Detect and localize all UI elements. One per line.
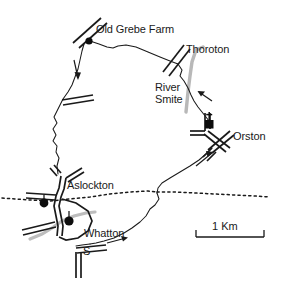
station-marker-label: S [83, 245, 90, 257]
church-icon-orston [205, 112, 214, 129]
place-label-orston: Orston [233, 131, 265, 143]
place-label-old-grebe-farm: Old Grebe Farm [96, 24, 174, 36]
direction-arrow-river-smite-leg [198, 91, 213, 101]
road-whatton-junction [76, 245, 107, 278]
river-label-line-1: River [155, 82, 180, 94]
road-crossing-west [62, 95, 94, 105]
scale-bar-label: 1 Km [212, 220, 238, 232]
direction-arrow-orston-leg [196, 151, 214, 166]
site-marker-aslockton [40, 199, 49, 208]
site-marker-whatton [64, 216, 73, 225]
road-aslockton [22, 165, 92, 240]
river-label-line-2: Smite [155, 94, 183, 106]
place-label-whatton: Whatton [84, 228, 124, 240]
place-label-thoroton: Thoroton [186, 44, 229, 56]
place-label-aslockton: Aslockton [67, 180, 114, 192]
site-marker-old-grebe-farm [85, 37, 92, 44]
route-map: Old Grebe Farm Thoroton River Smite Orst… [0, 0, 281, 283]
